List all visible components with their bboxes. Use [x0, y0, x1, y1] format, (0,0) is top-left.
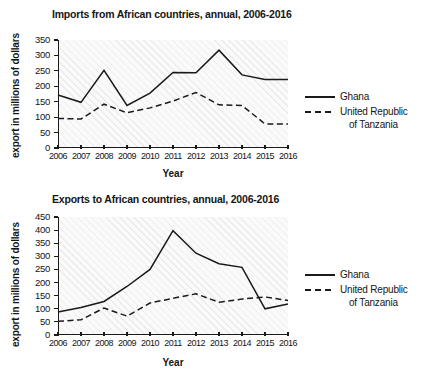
y-tick-mark [54, 230, 58, 231]
y-tick-label: 450 [18, 211, 50, 222]
x-axis-label-imports: Year [58, 168, 288, 179]
y-tick-mark [54, 117, 58, 118]
x-tick-mark [80, 332, 81, 336]
y-tick-mark [54, 132, 58, 133]
x-tick-mark [172, 145, 173, 149]
y-tick-mark [54, 282, 58, 283]
y-tick-mark [54, 295, 58, 296]
x-tick-mark [103, 332, 104, 336]
series-line-ghana [58, 50, 288, 105]
y-tick-label: 200 [18, 80, 50, 91]
chart-title-exports: Exports to African countries, annual, 20… [52, 193, 332, 205]
x-axis-label-exports: Year [58, 357, 288, 368]
chart-exports: Exports to African countries, annual, 20… [0, 185, 432, 381]
series-lines-imports [58, 40, 288, 148]
x-tick-mark [172, 332, 173, 336]
x-tick-mark [241, 145, 242, 149]
legend-line-solid-icon [305, 96, 335, 98]
y-tick-label: 300 [18, 250, 50, 261]
y-tick-mark [54, 86, 58, 87]
x-tick-mark [103, 145, 104, 149]
series-lines-exports [58, 217, 288, 335]
legend-label-tanzania-line2: of Tanzania [349, 118, 398, 132]
y-tick-label: 250 [18, 65, 50, 76]
legend-label-ghana: Ghana [340, 268, 369, 282]
y-tick-mark [54, 70, 58, 71]
x-tick-mark [287, 332, 288, 336]
x-tick-mark [218, 145, 219, 149]
y-tick-label: 150 [18, 290, 50, 301]
legend-line-dashed-icon [305, 111, 335, 113]
legend-line-dashed-icon [305, 289, 335, 291]
legend-label-tanzania-line1: United Republic [340, 105, 408, 119]
y-tick-label: 150 [18, 96, 50, 107]
y-tick-mark [54, 243, 58, 244]
x-tick-mark [264, 145, 265, 149]
y-tick-mark [54, 308, 58, 309]
y-tick-mark [54, 101, 58, 102]
legend-label-ghana: Ghana [340, 90, 369, 104]
x-tick-mark [241, 332, 242, 336]
series-line-united-republic-of-tanzania [58, 294, 288, 322]
y-tick-label: 100 [18, 303, 50, 314]
y-tick-label: 250 [18, 263, 50, 274]
chart-title-imports: Imports from African countries, annual, … [52, 8, 332, 20]
x-tick-mark [80, 145, 81, 149]
y-tick-mark [54, 321, 58, 322]
x-tick-mark [287, 145, 288, 149]
legend-label-tanzania-line1: United Republic [340, 283, 408, 297]
y-tick-label: 50 [18, 316, 50, 327]
y-tick-label: 100 [18, 111, 50, 122]
y-tick-label: 350 [18, 237, 50, 248]
x-tick-mark [264, 332, 265, 336]
x-tick-mark [57, 145, 58, 149]
chart-imports: Imports from African countries, annual, … [0, 0, 432, 190]
y-tick-mark [54, 256, 58, 257]
x-tick-mark [126, 145, 127, 149]
y-tick-mark [54, 269, 58, 270]
x-tick-mark [149, 332, 150, 336]
x-tick-label: 2016 [275, 338, 301, 348]
y-tick-label: 400 [18, 224, 50, 235]
plot-area-exports [58, 217, 288, 335]
plot-area-imports [58, 40, 288, 148]
x-tick-mark [126, 332, 127, 336]
x-tick-mark [195, 145, 196, 149]
y-tick-label: 300 [18, 49, 50, 60]
series-line-ghana [58, 231, 288, 312]
x-tick-mark [218, 332, 219, 336]
x-tick-mark [57, 332, 58, 336]
y-tick-mark [54, 55, 58, 56]
y-tick-label: 200 [18, 277, 50, 288]
series-line-united-republic-of-tanzania [58, 92, 288, 123]
x-tick-label: 2016 [275, 151, 301, 161]
x-tick-mark [149, 145, 150, 149]
legend-label-tanzania-line2: of Tanzania [349, 296, 398, 310]
x-tick-mark [195, 332, 196, 336]
y-tick-label: 350 [18, 34, 50, 45]
y-tick-mark [54, 216, 58, 217]
y-tick-mark [54, 39, 58, 40]
y-tick-label: 50 [18, 127, 50, 138]
legend-line-solid-icon [305, 274, 335, 276]
